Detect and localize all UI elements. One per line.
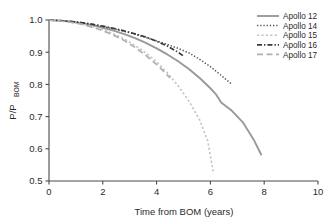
x-tick-label: 6 (208, 186, 213, 197)
data-series-group (49, 20, 262, 171)
axes-group (46, 20, 319, 185)
legend-label-apollo-15: Apollo 15 (283, 31, 318, 40)
y-axis-tick-labels: 0.50.60.70.80.91.0 (29, 14, 42, 186)
chart-canvas: 0.50.60.70.80.91.0 0246810 Apollo 12Apol… (0, 0, 335, 223)
y-tick-label: 0.8 (29, 79, 42, 90)
series-line-apollo-16 (49, 20, 184, 56)
legend-label-apollo-17: Apollo 17 (283, 51, 318, 60)
y-axis-title: P/P (7, 104, 18, 119)
series-line-apollo-15 (49, 20, 213, 171)
y-tick-label: 1.0 (29, 14, 42, 25)
legend-label-apollo-12: Apollo 12 (283, 12, 318, 21)
x-tick-label: 0 (46, 186, 51, 197)
x-tick-label: 10 (313, 186, 324, 197)
y-axis-title-group: P/P BOM (7, 81, 20, 119)
x-tick-label: 4 (154, 186, 159, 197)
legend-label-apollo-14: Apollo 14 (283, 22, 318, 31)
x-axis-title: Time from BOM (years) (135, 206, 234, 217)
legend-label-apollo-16: Apollo 16 (283, 41, 318, 50)
y-tick-label: 0.7 (29, 111, 42, 122)
x-tick-label: 2 (100, 186, 105, 197)
y-axis-title-subscript: BOM (13, 81, 20, 97)
x-tick-label: 8 (262, 186, 267, 197)
chart-legend: Apollo 12Apollo 14Apollo 15Apollo 16Apol… (257, 12, 318, 59)
y-tick-label: 0.9 (29, 47, 42, 58)
x-axis-tick-labels: 0246810 (46, 186, 323, 197)
y-tick-label: 0.6 (29, 143, 42, 154)
y-tick-label: 0.5 (29, 175, 42, 186)
chart-figure: 0.50.60.70.80.91.0 0246810 Apollo 12Apol… (0, 0, 335, 223)
